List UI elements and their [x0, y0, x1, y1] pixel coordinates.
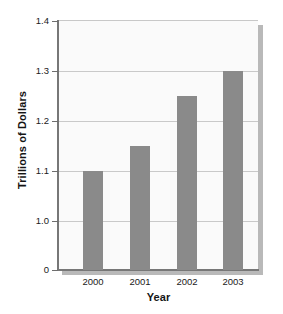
y-tick-mark: [52, 121, 58, 122]
y-tick-label: 1.2: [15, 116, 49, 126]
y-tick-label: 0: [15, 265, 49, 275]
x-tick-label: 2003: [209, 277, 257, 287]
plot-shadow-bottom: [62, 270, 263, 275]
x-tick-label: 2002: [163, 277, 211, 287]
plot-shadow-right: [258, 25, 263, 275]
x-axis-title: Year: [58, 291, 259, 303]
bar-2002: [177, 96, 197, 270]
y-axis-title: Trillions of Dollars: [16, 50, 28, 230]
y-tick-mark: [52, 270, 58, 271]
y-tick-label: 1.3: [15, 66, 49, 76]
bar-2001: [130, 146, 150, 270]
y-tick-mark: [52, 21, 58, 22]
y-tick-label: 1.0: [15, 216, 49, 226]
bar-2000: [83, 171, 103, 270]
x-tick-label: 2000: [69, 277, 117, 287]
y-tick-label: 1.1: [15, 166, 49, 176]
y-tick-mark: [52, 71, 58, 72]
y-tick-mark: [52, 221, 58, 222]
bar-chart: Trillions of Dollars Year 1.41.31.21.11.…: [0, 0, 283, 314]
x-tick-label: 2001: [116, 277, 164, 287]
y-tick-mark: [52, 171, 58, 172]
y-tick-label: 1.4: [15, 16, 49, 26]
bar-2003: [223, 71, 243, 270]
y-axis-line: [57, 20, 59, 271]
